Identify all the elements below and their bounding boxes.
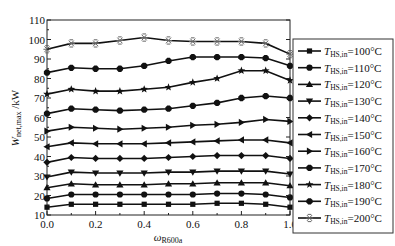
- triangle-right-marker-icon: [117, 126, 123, 133]
- square-marker-icon: [239, 201, 244, 206]
- asterisk-marker-icon: [141, 34, 148, 41]
- asterisk-marker-icon: [189, 38, 196, 45]
- series-170C: [44, 93, 293, 117]
- star-marker-icon: [165, 83, 173, 90]
- asterisk-marker-icon: [68, 40, 75, 47]
- line-chart: 0.00.20.40.60.81.0 102030405060708090100…: [0, 0, 395, 246]
- diamond-marker-icon: [189, 153, 196, 160]
- square-marker-icon: [166, 202, 171, 207]
- circle-marker-icon: [141, 191, 147, 197]
- y-tick-label: 40: [34, 151, 46, 163]
- asterisk-marker-icon: [262, 40, 269, 47]
- octagon-marker-icon: [190, 103, 196, 109]
- y-axis-label: Wnet,max /kW: [9, 89, 23, 146]
- octagon-marker-icon: [68, 65, 74, 71]
- series-110C: [44, 190, 293, 201]
- star-marker-icon: [238, 67, 246, 74]
- asterisk-marker-icon: [116, 37, 123, 44]
- triangle-left-marker-icon: [141, 140, 147, 147]
- triangle-right-marker-icon: [69, 124, 75, 131]
- triangle-right-marker-icon: [142, 125, 148, 132]
- triangle-left-marker-icon: [92, 140, 98, 147]
- octagon-marker-icon: [165, 58, 171, 64]
- circle-marker-icon: [238, 190, 244, 196]
- square-marker-icon: [263, 202, 268, 207]
- diamond-marker-icon: [262, 152, 269, 159]
- octagon-marker-icon: [263, 55, 269, 61]
- circle-marker-icon: [68, 191, 74, 197]
- circle-marker-icon: [165, 191, 171, 197]
- y-tick-label: 60: [34, 112, 46, 124]
- triangle-left-marker-icon: [68, 139, 74, 146]
- triangle-left-marker-icon: [238, 136, 244, 143]
- asterisk-marker-icon: [214, 38, 221, 45]
- chart-figure: 0.00.20.40.60.81.0 102030405060708090100…: [0, 0, 395, 246]
- octagon-marker-icon: [214, 100, 220, 106]
- y-tick-label: 110: [29, 14, 46, 26]
- series-100C: [44, 201, 292, 210]
- octagon-marker-icon: [117, 66, 123, 72]
- octagon-marker-icon: [141, 63, 147, 69]
- octagon-marker-icon: [306, 198, 312, 204]
- star-marker-icon: [189, 78, 197, 85]
- series-120C: [43, 179, 293, 190]
- octagon-marker-icon: [306, 165, 312, 171]
- square-marker-icon: [69, 202, 74, 207]
- triangle-right-marker-icon: [190, 122, 196, 129]
- square-marker-icon: [190, 202, 195, 207]
- square-marker-icon: [117, 202, 122, 207]
- diamond-marker-icon: [214, 152, 221, 159]
- series-190C: [44, 54, 293, 76]
- square-marker-icon: [142, 202, 147, 207]
- triangle-left-marker-icon: [262, 136, 268, 143]
- triangle-right-marker-icon: [93, 125, 99, 132]
- star-marker-icon: [140, 85, 148, 92]
- octagon-marker-icon: [214, 54, 220, 60]
- diamond-marker-icon: [141, 155, 148, 162]
- series-200C: [43, 34, 293, 58]
- y-tick-label: 70: [34, 92, 46, 104]
- square-marker-icon: [287, 205, 292, 210]
- circle-marker-icon: [214, 190, 220, 196]
- octagon-marker-icon: [238, 54, 244, 60]
- series-layer: [43, 34, 294, 210]
- triangle-left-marker-icon: [116, 140, 122, 147]
- star-marker-icon: [67, 85, 75, 92]
- triangle-left-marker-icon: [165, 139, 171, 146]
- asterisk-marker-icon: [92, 40, 99, 47]
- asterisk-marker-icon: [165, 37, 172, 44]
- legend: THS,in=100°CTHS,in=110°CTHS,in=120°CTHS,…: [293, 39, 393, 233]
- triangle-right-marker-icon: [239, 119, 245, 126]
- circle-marker-icon: [263, 191, 269, 197]
- triangle-left-marker-icon: [214, 137, 220, 144]
- y-tick-label: 30: [34, 170, 46, 182]
- triangle-right-marker-icon: [263, 116, 269, 123]
- series-130C: [43, 169, 293, 181]
- octagon-marker-icon: [92, 66, 98, 72]
- circle-marker-icon: [306, 65, 312, 71]
- diamond-marker-icon: [238, 152, 245, 159]
- series-140C: [43, 152, 293, 166]
- x-tick-label: 0.4: [137, 218, 151, 230]
- octagon-marker-icon: [165, 106, 171, 112]
- octagon-marker-icon: [117, 108, 123, 114]
- asterisk-marker-icon: [238, 38, 245, 45]
- square-marker-icon: [307, 48, 312, 53]
- series-150C: [43, 136, 292, 150]
- octagon-marker-icon: [287, 63, 293, 69]
- circle-marker-icon: [117, 191, 123, 197]
- octagon-marker-icon: [92, 107, 98, 113]
- octagon-marker-icon: [238, 95, 244, 101]
- triangle-left-marker-icon: [189, 138, 195, 145]
- square-marker-icon: [215, 201, 220, 206]
- diamond-marker-icon: [165, 154, 172, 161]
- y-tick-label: 50: [34, 131, 46, 143]
- octagon-marker-icon: [141, 107, 147, 113]
- series-180C: [43, 67, 294, 98]
- star-marker-icon: [92, 87, 100, 94]
- diamond-marker-icon: [116, 155, 123, 162]
- y-tick-label: 10: [34, 209, 46, 221]
- diamond-marker-icon: [92, 155, 99, 162]
- star-marker-icon: [262, 67, 270, 74]
- square-marker-icon: [93, 202, 98, 207]
